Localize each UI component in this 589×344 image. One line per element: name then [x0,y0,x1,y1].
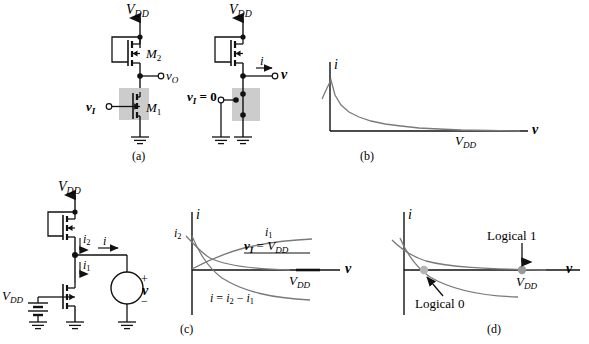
panel-a [106,18,164,144]
shaded-region-b [232,88,260,121]
ground-symbol-c-m1 [66,322,84,329]
transistor-m2-a [128,37,140,76]
current-label-i-b: i [260,53,264,69]
logical-1-label-d: Logical 1 [487,228,536,244]
current-label-i-c: i [103,234,106,249]
input-label-a: vI [86,99,95,116]
current-label-i1-c: i1 [83,258,91,273]
wire-m2-gate-feedback-a [112,37,140,62]
panel-b-plot [322,62,528,131]
axis-label-i-b: i [334,57,338,73]
terminal-v-b [272,73,278,79]
node-dot-upper-b [240,91,246,97]
terminal-voltage-label-b: v [281,67,287,83]
shaded-region-m1-a [119,88,149,120]
node-dot-lower-b [240,112,246,118]
terminal-input-a [106,104,112,110]
curve-label-vi-vdd-c: vI = VDD [244,238,288,255]
m2-label-a: M2 [146,46,161,63]
node-dot-input-b [233,97,239,103]
caption-a: (a) [132,149,145,164]
curve-upper-d [392,240,546,270]
vdd-label-a: VDD [126,2,149,19]
ground-symbol-b-left [212,137,230,144]
axis-label-i-c: i [196,207,200,223]
curve-label-i-difference-c: i = i2 − i1 [210,291,254,306]
voltage-source-c [111,272,143,304]
logical-0-marker-d [420,266,428,274]
axis-label-v-b: v [532,122,538,138]
m1-label-a: M1 [146,100,161,117]
caption-d: (d) [487,322,501,337]
transistor-m1-c [63,283,75,322]
logical-1-marker-d [518,266,526,274]
wire-m2-gate-feedback-c [48,212,75,236]
ground-symbol-c-battery [29,322,47,329]
panel-b-circuit [212,18,278,144]
axis-label-v-d: v [566,261,572,277]
vdd-label-c-left: VDD [2,288,23,305]
input-zero-label-b: vI = 0 [187,89,217,106]
battery-vdd-c [28,303,48,315]
ytick-i2-c: i2 [174,226,182,241]
xtick-vdd-b: VDD [455,133,476,150]
transistor-m2-b [231,37,243,76]
output-label-a: vO [166,68,178,85]
logical-0-label-d: Logical 0 [415,296,464,312]
curve-lower-d [400,238,518,297]
source-minus-label-c: − [141,294,148,309]
axis-label-v-c: v [345,261,351,277]
current-label-i2-c: i2 [83,232,91,247]
vdd-label-b: VDD [229,2,252,19]
ground-symbol-c-source [118,322,136,329]
curve-load-line-b [322,80,520,131]
xtick-vdd-d: VDD [516,274,537,291]
ground-symbol-b-right [234,137,252,144]
caption-b: (b) [360,149,374,164]
figure-canvas [0,0,589,344]
wire-m2-gate-feedback-b [215,37,243,62]
transistor-m2-c [63,212,75,255]
terminal-output-a [158,73,164,79]
xtick-vdd-c: VDD [289,273,310,290]
caption-c: (c) [180,322,193,337]
vdd-label-c-top: VDD [58,179,81,196]
terminal-input-b [218,97,224,103]
ground-symbol-a [131,137,149,144]
axis-label-i-d: i [408,207,412,223]
